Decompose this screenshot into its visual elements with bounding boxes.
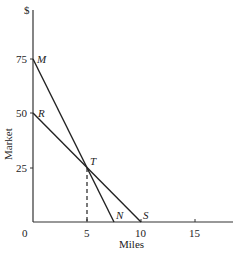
x-tick-label-5: 5	[84, 227, 90, 239]
y-tick-label-25: 25	[16, 162, 28, 174]
line-MN	[33, 59, 114, 222]
point-label-N: N	[115, 209, 124, 221]
y-unit-label: $	[24, 4, 30, 16]
x-axis-label: Miles	[119, 238, 144, 250]
origin-label: 0	[22, 227, 28, 239]
point-label-M: M	[36, 53, 47, 65]
y-tick-label-50: 50	[16, 107, 28, 119]
y-axis-label: Market	[2, 128, 14, 160]
point-label-R: R	[37, 107, 45, 119]
y-tick-label-75: 75	[16, 53, 28, 65]
point-label-T: T	[90, 155, 97, 167]
point-label-S: S	[143, 209, 149, 221]
chart: $ 75 50 25 0 5 10 15 Miles Market M R T …	[0, 0, 241, 264]
x-tick-label-15: 15	[189, 227, 201, 239]
